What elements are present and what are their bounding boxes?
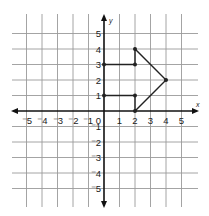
y-tick-label: ⁻2 (91, 137, 101, 148)
y-axis-up-arrow-icon (101, 14, 107, 21)
vertex-point (164, 78, 168, 82)
y-tick-label: 3 (96, 59, 101, 70)
vertex-point (133, 109, 137, 113)
y-tick-label: 2 (96, 75, 101, 86)
x-tick-label: ⁻3 (53, 115, 63, 126)
x-tick-label: ⁻5 (22, 115, 32, 126)
x-axis-right-arrow-icon (192, 108, 199, 114)
axes: x y (11, 14, 200, 208)
y-tick-label: ⁻4 (91, 168, 101, 179)
vertex-point (102, 63, 106, 67)
vertex-point (133, 94, 137, 98)
vertex-point (133, 47, 137, 51)
x-axis-label: x (195, 101, 200, 108)
y-tick-label: ⁻1 (91, 121, 101, 132)
x-tick-label: 4 (163, 115, 168, 126)
x-axis-left-arrow-icon (11, 108, 18, 114)
coordinate-plane: x y ⁻5 ⁻4 ⁻3 ⁻2 ⁻1 0 1 2 3 4 5 5 4 3 2 1… (0, 0, 209, 216)
y-tick-label: ⁻5 (91, 183, 101, 194)
y-axis-label: y (108, 17, 113, 25)
y-axis-down-arrow-icon (101, 201, 107, 208)
x-tick-label: 3 (148, 115, 153, 126)
x-tick-label: ⁻2 (68, 115, 78, 126)
y-tick-label: ⁻3 (91, 152, 101, 163)
y-tick-label: 5 (96, 28, 101, 39)
y-tick-label: 4 (96, 44, 101, 55)
x-tick-labels: ⁻5 ⁻4 ⁻3 ⁻2 ⁻1 0 1 2 3 4 5 (22, 115, 184, 126)
vertex-point (102, 94, 106, 98)
x-tick-label: 1 (117, 115, 122, 126)
x-tick-label: 2 (132, 115, 137, 126)
vertex-point (133, 63, 137, 67)
x-tick-label: ⁻4 (37, 115, 47, 126)
y-tick-label: 1 (96, 90, 101, 101)
x-tick-label: 5 (179, 115, 184, 126)
